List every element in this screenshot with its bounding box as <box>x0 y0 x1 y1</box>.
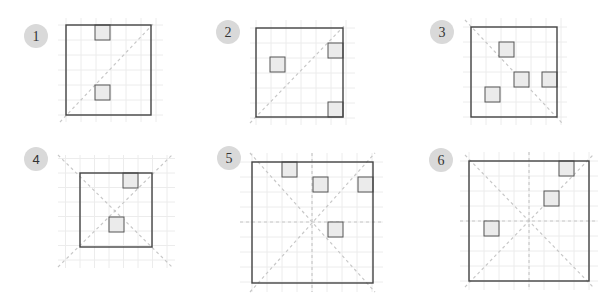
shaded-cell <box>484 221 499 236</box>
badge-label: 4 <box>32 152 39 167</box>
shaded-cell <box>328 222 343 237</box>
shaded-cell <box>123 173 138 188</box>
panel-4: 4 <box>24 147 175 268</box>
badge-label: 1 <box>33 29 40 44</box>
panel-2: 2 <box>216 20 355 125</box>
shaded-cell <box>328 102 343 117</box>
shaded-cell <box>109 217 124 232</box>
shaded-cell <box>485 87 500 102</box>
shaded-cell <box>542 72 557 87</box>
panel-1: 1 <box>24 18 163 122</box>
panel-5: 5 <box>217 146 383 292</box>
shaded-cell <box>313 177 328 192</box>
shaded-cell <box>282 162 297 177</box>
shaded-cell <box>328 43 343 58</box>
panel-6: 6 <box>429 148 598 290</box>
diagram-canvas: 123456 <box>0 0 609 302</box>
panel-3: 3 <box>430 18 567 125</box>
badge-label: 2 <box>225 25 232 40</box>
badge-label: 3 <box>439 25 446 40</box>
shaded-cell <box>95 85 110 100</box>
shaded-cell <box>270 57 285 72</box>
shaded-cell <box>499 42 514 57</box>
shaded-cell <box>95 25 110 40</box>
badge-label: 5 <box>226 151 233 166</box>
shaded-cell <box>514 72 529 87</box>
shaded-cell <box>559 161 574 176</box>
shaded-cell <box>358 177 373 192</box>
shaded-cell <box>544 191 559 206</box>
badge-label: 6 <box>438 153 445 168</box>
